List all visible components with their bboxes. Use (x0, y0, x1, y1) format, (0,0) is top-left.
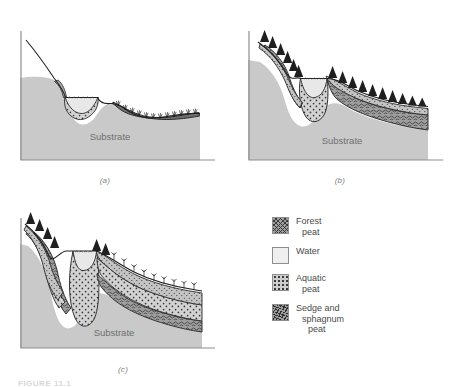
tree-icon (348, 76, 357, 88)
legend-label-water: Water (296, 246, 320, 257)
panel-label-b: (b) (320, 176, 360, 185)
panel-label-c: (c) (103, 365, 143, 374)
aquatic-peat-swatch (272, 274, 289, 291)
legend-label-aquatic-peat: Aquatic peat (296, 273, 326, 294)
tree-icon (92, 239, 101, 251)
water-swatch (272, 247, 289, 264)
legend-label-sedge-sphagnum-peat: Sedge and sphagnum peat (296, 303, 344, 335)
legend-item-sedge-sphagnum-peat: Sedge and sphagnum peat (272, 303, 392, 335)
tree-icon (283, 51, 292, 63)
tree-icon (398, 93, 407, 104)
legend-label-forest-peat: Forest peat (296, 216, 322, 237)
sedge-sphagnum-peat-swatch (272, 304, 289, 321)
tree-icon (388, 90, 397, 102)
substrate-label-a: Substrate (90, 131, 131, 142)
substrate-label-b: Substrate (322, 135, 363, 146)
tree-icon (358, 80, 367, 92)
substrate-label-c: Substrate (94, 327, 135, 338)
tree-icon (338, 71, 347, 83)
legend-item-aquatic-peat: Aquatic peat (272, 273, 392, 294)
tree-icon (26, 212, 35, 224)
panel-c: Substrate (18, 212, 218, 364)
bottom-caption: FIGURE 11.1 (18, 379, 218, 387)
tree-icon (260, 30, 269, 42)
legend-item-forest-peat: Forest peat (272, 216, 392, 237)
panel-b: Substrate (246, 18, 446, 176)
tree-icon (418, 98, 426, 107)
tree-icon (408, 96, 417, 106)
forest-peat-swatch (272, 217, 289, 234)
tree-icon (43, 227, 52, 239)
panel-label-a: (a) (85, 176, 125, 185)
tree-icon (268, 36, 277, 48)
legend-item-water: Water (272, 246, 392, 264)
panel-a: Substrate (18, 18, 218, 176)
tree-icon (368, 84, 377, 96)
tree-icon (276, 43, 285, 55)
tree-icon (101, 243, 110, 255)
legend: Forest peat Water Aquatic peat Sedge and… (272, 216, 392, 344)
tree-icon (328, 66, 337, 78)
tree-icon (378, 87, 387, 99)
tree-icon (35, 219, 44, 231)
